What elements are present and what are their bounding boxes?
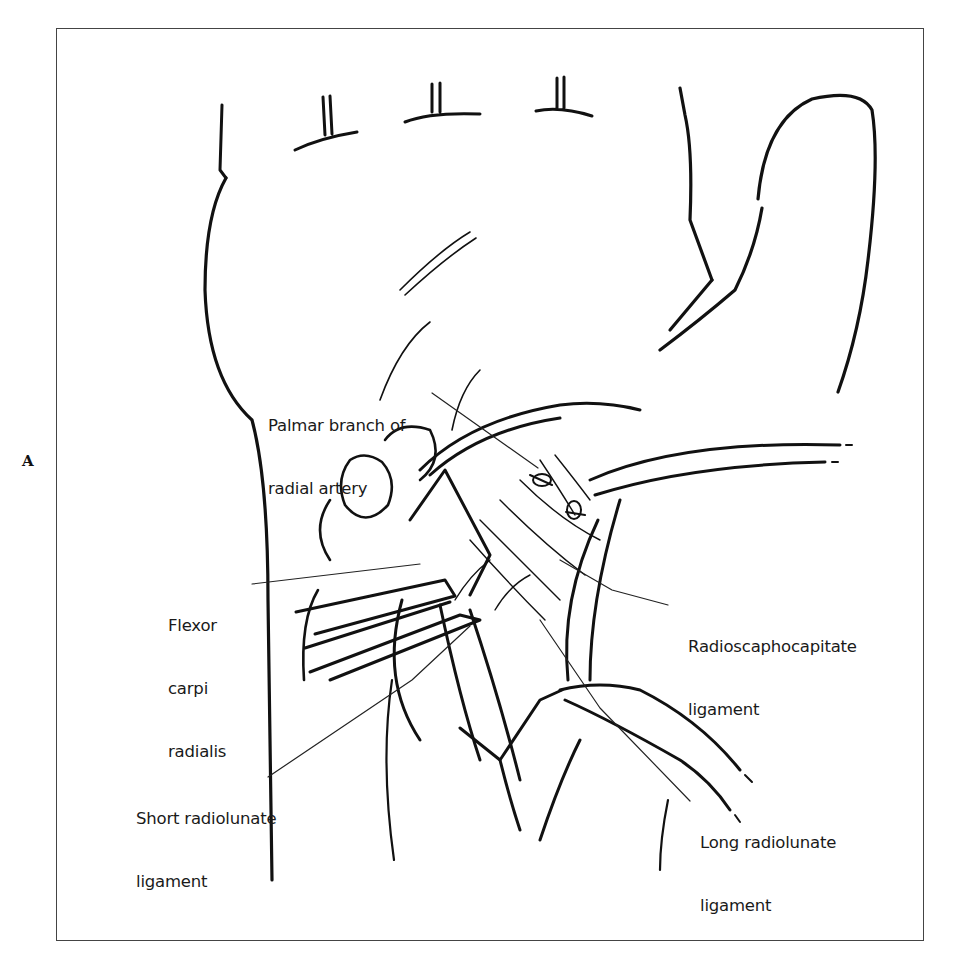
label-short-radiolunate-ligament: Short radiolunate ligament xyxy=(136,766,276,913)
label-flexor-carpi-radialis: Flexor carpi radialis xyxy=(168,573,226,783)
label-long-radiolunate-ligament: Long radiolunate ligament xyxy=(700,790,836,937)
label-radioscaphocapitate-ligament: Radioscaphocapitate ligament xyxy=(688,594,857,741)
label-line: ligament xyxy=(688,699,857,720)
label-line: radial artery xyxy=(268,478,405,499)
label-line: Palmar branch of xyxy=(268,415,405,436)
label-line: Long radiolunate xyxy=(700,832,836,853)
label-line: radialis xyxy=(168,741,226,762)
ligament-fibers xyxy=(455,455,600,620)
label-line: Short radiolunate xyxy=(136,808,276,829)
thumb xyxy=(660,88,875,392)
label-palmar-branch-radial-artery: Palmar branch of radial artery xyxy=(268,373,405,520)
label-line: ligament xyxy=(700,895,836,916)
label-line: carpi xyxy=(168,678,226,699)
label-line: Radioscaphocapitate xyxy=(688,636,857,657)
forearm-contours xyxy=(386,680,668,870)
knuckle-marks xyxy=(220,77,592,178)
label-line: Flexor xyxy=(168,615,226,636)
label-line: ligament xyxy=(136,871,276,892)
